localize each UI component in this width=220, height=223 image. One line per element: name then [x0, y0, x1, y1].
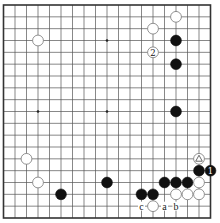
point-label-c: c: [138, 201, 145, 212]
svg-text:a: a: [162, 201, 167, 212]
black-stone: [182, 177, 193, 188]
white-stone: [33, 35, 44, 46]
white-stone: 2: [148, 47, 159, 58]
point-label-a: a: [161, 201, 168, 212]
white-stone: [182, 189, 193, 200]
star-point: [37, 110, 40, 113]
black-stone: [194, 165, 205, 176]
white-stone: [33, 177, 44, 188]
black-stone: [171, 35, 182, 46]
black-stone: [148, 189, 159, 200]
white-stone: [194, 189, 205, 200]
black-stone: [159, 177, 170, 188]
white-stone: [148, 23, 159, 34]
black-stone: [136, 189, 147, 200]
black-stone: 1: [205, 165, 216, 176]
point-label-b: b: [173, 201, 180, 212]
star-point: [106, 110, 109, 113]
move-number: 1: [208, 166, 213, 176]
black-stone: [171, 106, 182, 117]
white-stone: [194, 177, 205, 188]
svg-text:c: c: [139, 201, 144, 212]
black-stone: [171, 177, 182, 188]
black-stone: [171, 59, 182, 70]
black-stone: [102, 177, 113, 188]
white-stone: [194, 153, 205, 164]
white-stone: [171, 189, 182, 200]
move-number: 2: [150, 48, 155, 58]
white-stone: [148, 201, 159, 212]
white-stone: [21, 153, 32, 164]
black-stone: [56, 189, 67, 200]
star-point: [106, 39, 109, 42]
svg-text:b: b: [174, 201, 179, 212]
white-stone: [171, 11, 182, 22]
go-board: 21 cab: [0, 0, 220, 223]
